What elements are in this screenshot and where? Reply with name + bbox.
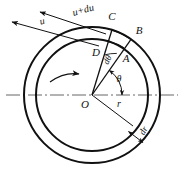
figure-container: u u+du C B D A dθ θ O r dr [0,0,184,174]
rotation-direction-arrow [50,74,79,82]
label-dtheta: dθ [101,53,114,66]
label-point-O: O [81,98,89,110]
label-r: r [117,98,121,109]
label-point-C: C [108,10,116,22]
label-point-B: B [136,24,143,36]
label-u-plus-du: u+du [71,1,95,18]
radius-line-r [92,95,133,126]
label-point-A: A [122,52,130,64]
annulus-sector-diagram: u u+du C B D A dθ θ O r dr [0,0,184,174]
label-u: u [38,15,46,27]
velocity-vector-u [12,22,99,46]
label-theta: θ [117,73,122,84]
label-point-D: D [91,46,100,58]
